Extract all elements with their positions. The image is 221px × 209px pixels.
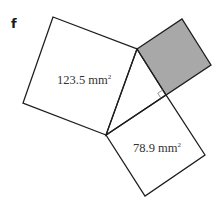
figure-label: f (11, 16, 17, 31)
shaded-square (137, 19, 211, 95)
lower-square-area-value: 78.9 mm (133, 141, 178, 155)
pythagoras-diagram: f 123.5 mm2 78.9 mm2 (0, 0, 221, 209)
large-square-area-value: 123.5 mm (57, 73, 108, 87)
large-square-area-label: 123.5 mm2 (57, 73, 112, 87)
lower-square-area-exponent: 2 (177, 141, 181, 149)
large-square-area-exponent: 2 (108, 73, 112, 81)
lower-square-area-label: 78.9 mm2 (133, 141, 181, 155)
diagram-svg: f 123.5 mm2 78.9 mm2 (0, 0, 221, 209)
